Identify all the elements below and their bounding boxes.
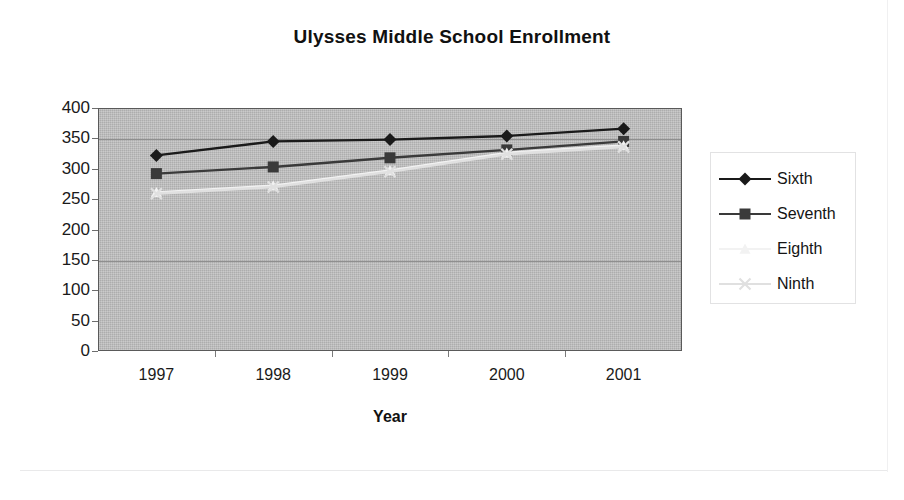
data-point-marker (385, 152, 396, 163)
y-axis-tick-label: 0 (32, 342, 90, 359)
page-scan-edge-bottom (20, 470, 888, 471)
legend-marker-diamond-icon (717, 167, 773, 191)
chart-legend: SixthSeventhEighthNinth (710, 152, 856, 304)
legend-label: Ninth (777, 275, 814, 293)
y-axis-tick-label: 100 (32, 281, 90, 298)
legend-item-ninth[interactable]: Ninth (711, 265, 857, 303)
y-axis-tick-label: 200 (32, 221, 90, 238)
y-axis-tick-label: 350 (32, 129, 90, 146)
chart-page: Ulysses Middle School Enrollment 4003503… (0, 0, 904, 500)
data-point-marker (384, 133, 397, 146)
legend-item-seventh[interactable]: Seventh (711, 195, 857, 233)
y-axis-tick-label: 400 (32, 99, 90, 116)
legend-item-sixth[interactable]: Sixth (711, 160, 857, 198)
x-axis-tick-label: 1998 (228, 366, 318, 384)
legend-item-eighth[interactable]: Eighth (711, 230, 857, 268)
x-axis-title: Year (98, 408, 682, 426)
legend-label: Seventh (777, 205, 836, 223)
y-axis-tick-mark (92, 351, 98, 352)
y-axis-tick-label: 250 (32, 190, 90, 207)
y-axis-ticks: 400350300250200150100500 (32, 0, 90, 500)
legend-marker-triangle-icon (717, 237, 773, 261)
y-axis-tick-label: 150 (32, 251, 90, 268)
legend-marker-square-icon (717, 202, 773, 226)
x-axis-tick-mark (565, 351, 566, 357)
x-axis-tick-label: 1997 (111, 366, 201, 384)
legend-label: Sixth (777, 170, 813, 188)
chart-title: Ulysses Middle School Enrollment (0, 26, 904, 48)
page-scan-edge-right (887, 0, 888, 472)
data-point-marker (268, 161, 279, 172)
data-point-marker (617, 122, 630, 135)
x-axis-tick-label: 2001 (579, 366, 669, 384)
x-axis-tick-label: 1999 (345, 366, 435, 384)
series-plot (98, 108, 682, 351)
x-axis-tick-mark (332, 351, 333, 357)
legend-label: Eighth (777, 240, 822, 258)
y-axis-tick-label: 50 (32, 312, 90, 329)
x-axis-tick-mark (215, 351, 216, 357)
x-axis-tick-label: 2000 (462, 366, 552, 384)
x-axis-tick-mark (448, 351, 449, 357)
data-point-marker (500, 129, 513, 142)
data-point-marker (150, 149, 163, 162)
y-axis-tick-label: 300 (32, 160, 90, 177)
legend-marker-cross-icon (717, 272, 773, 296)
data-point-marker (267, 135, 280, 148)
data-point-marker (151, 168, 162, 179)
